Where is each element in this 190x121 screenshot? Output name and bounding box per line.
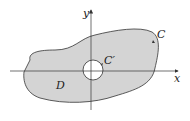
label-x: x — [174, 72, 181, 85]
label-c-prime: C′ — [104, 54, 115, 67]
label-y: y — [82, 7, 90, 20]
label-d: D — [55, 79, 65, 92]
hole — [83, 60, 103, 80]
label-c: C — [157, 28, 166, 41]
diagram-canvas: y x C C′ D — [0, 0, 190, 121]
